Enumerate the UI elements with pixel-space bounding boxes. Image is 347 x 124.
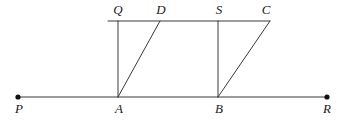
figure-strokes	[18, 21, 327, 97]
segment-CB	[218, 21, 270, 97]
figure-canvas	[0, 0, 347, 124]
point-dot-P	[15, 94, 20, 99]
vertex-label-A: A	[115, 102, 123, 115]
point-dot-R	[324, 94, 329, 99]
vertex-label-B: B	[215, 102, 223, 115]
vertex-label-P: P	[15, 102, 23, 115]
segment-DA	[118, 21, 160, 97]
vertex-label-Q: Q	[113, 3, 122, 16]
vertex-label-D: D	[156, 3, 165, 16]
vertex-label-C: C	[262, 3, 271, 16]
geometry-figure: Q D S C P A B R	[0, 0, 347, 124]
vertex-label-R: R	[323, 102, 331, 115]
vertex-label-S: S	[216, 3, 223, 16]
